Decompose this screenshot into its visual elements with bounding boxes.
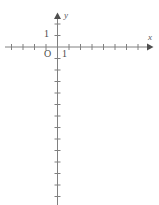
y-axis-label: y bbox=[64, 11, 68, 20]
x-axis-arrowhead bbox=[147, 44, 154, 51]
y-axis-arrowhead bbox=[54, 13, 61, 20]
origin-label: O bbox=[44, 49, 51, 59]
y-axis-unit-label: 1 bbox=[44, 29, 49, 39]
coordinate-plane-figure: y x 1 O 1 bbox=[0, 0, 159, 205]
x-axis-unit-label: 1 bbox=[62, 49, 67, 59]
axes-svg bbox=[0, 0, 159, 205]
x-axis-label: x bbox=[148, 33, 152, 42]
